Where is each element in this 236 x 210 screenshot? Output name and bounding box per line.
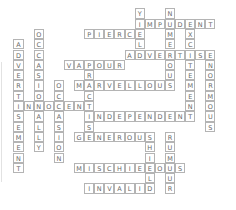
crossword-cell[interactable]: D [135,50,145,60]
crossword-cell[interactable]: E· [185,19,195,29]
crossword-cell[interactable]: U [165,19,175,29]
crossword-cell[interactable]: E [104,132,114,142]
crossword-cell[interactable]: O [165,60,175,70]
crossword-cell[interactable]: D [104,111,114,121]
crossword-cell[interactable]: C [104,163,114,173]
crossword-cell[interactable]: U [205,111,215,121]
crossword-cell[interactable]: V [13,60,23,70]
crossword-cell[interactable]: E [135,29,145,39]
crossword-cell[interactable]: M [165,153,175,163]
crossword-cell[interactable]: S [205,122,215,132]
crossword-cell[interactable]: V [104,80,114,90]
crossword-cell[interactable]: H [145,142,155,152]
crossword-cell[interactable]: T [13,163,23,173]
crossword-cell[interactable]: L [34,132,44,142]
crossword-cell[interactable]: A [34,60,44,70]
crossword-cell[interactable]: I [84,163,94,173]
crossword-cell[interactable]: A [54,111,64,121]
crossword-cell[interactable]: E [145,163,155,173]
crossword-cell[interactable]: U [155,80,165,90]
crossword-cell[interactable]: P· [84,29,94,39]
crossword-cell[interactable]: U [165,142,175,152]
crossword-cell[interactable]: C [34,39,44,49]
crossword-cell[interactable]: L [125,183,135,193]
crossword-cell[interactable]: O [155,163,165,173]
crossword-cell[interactable]: O· [34,29,44,39]
crossword-cell[interactable]: C [34,50,44,60]
crossword-cell[interactable]: D [155,111,165,121]
crossword-cell[interactable]: E [114,80,124,90]
crossword-cell[interactable]: O [54,142,64,152]
crossword-cell[interactable]: E [13,142,23,152]
crossword-cell[interactable]: S [13,111,23,121]
crossword-cell[interactable]: Y [34,142,44,152]
crossword-cell[interactable]: L [145,173,155,183]
crossword-cell[interactable]: R [94,80,104,90]
crossword-cell[interactable]: I [54,132,64,142]
crossword-cell[interactable]: V [104,183,114,193]
crossword-cell[interactable]: R [114,60,124,70]
crossword-cell[interactable]: N [34,101,44,111]
crossword-cell[interactable]: L [34,122,44,132]
crossword-cell[interactable]: V [145,50,155,60]
crossword-cell[interactable]: O [44,101,54,111]
crossword-cell[interactable]: E [84,132,94,142]
crossword-cell[interactable]: L [135,80,145,90]
crossword-cell[interactable]: E· [205,50,215,60]
crossword-cell[interactable]: V· [64,60,74,70]
crossword-cell[interactable]: S [94,163,104,173]
crossword-cell[interactable]: I· [84,111,94,121]
crossword-cell[interactable]: N [195,19,205,29]
crossword-cell[interactable]: N· [165,8,175,18]
crossword-cell[interactable]: E [185,70,195,80]
crossword-cell[interactable]: R· [165,132,175,142]
crossword-cell[interactable]: I· [135,19,145,29]
crossword-cell[interactable]: O [34,91,44,101]
crossword-cell[interactable]: T [205,19,215,29]
crossword-cell[interactable]: S [165,80,175,90]
crossword-cell[interactable]: E [13,122,23,132]
crossword-cell[interactable]: E [135,111,145,121]
crossword-cell[interactable]: G· [74,132,84,142]
crossword-cell[interactable]: M [165,29,175,39]
crossword-cell[interactable]: M [185,80,195,90]
crossword-cell[interactable]: I [185,50,195,60]
crossword-cell[interactable]: I· [13,101,23,111]
crossword-cell[interactable]: M [145,19,155,29]
crossword-cell[interactable]: X [185,29,195,39]
crossword-cell[interactable]: R [114,29,124,39]
crossword-cell[interactable]: O [125,132,135,142]
crossword-cell[interactable]: L [135,39,145,49]
crossword-cell[interactable]: A· [13,39,23,49]
crossword-cell[interactable]: N [13,153,23,163]
crossword-cell[interactable]: S [175,163,185,173]
crossword-cell[interactable]: T [175,50,185,60]
crossword-cell[interactable]: C [54,101,64,111]
crossword-cell[interactable]: R [114,132,124,142]
crossword-cell[interactable]: I [34,80,44,90]
crossword-cell[interactable]: C [185,39,195,49]
crossword-cell[interactable]: U [165,163,175,173]
crossword-cell[interactable]: R [205,80,215,90]
crossword-cell[interactable]: A [84,80,94,90]
crossword-cell[interactable]: E [13,70,23,80]
crossword-cell[interactable]: S· [145,132,155,142]
crossword-cell[interactable]: O· [54,80,64,90]
crossword-cell[interactable]: M [205,91,215,101]
crossword-cell[interactable]: U [104,60,114,70]
crossword-cell[interactable]: E [185,91,195,101]
crossword-cell[interactable]: U [135,132,145,142]
crossword-cell[interactable]: S [84,122,94,132]
crossword-cell[interactable]: L [125,80,135,90]
crossword-cell[interactable]: C [84,91,94,101]
crossword-cell[interactable]: N [185,101,195,111]
crossword-cell[interactable]: A [74,60,84,70]
crossword-cell[interactable]: N [94,183,104,193]
crossword-cell[interactable]: C [125,29,135,39]
crossword-cell[interactable]: A [114,183,124,193]
crossword-cell[interactable]: N [24,101,34,111]
crossword-cell[interactable]: O [205,101,215,111]
crossword-cell[interactable]: E [165,39,175,49]
crossword-cell[interactable]: N [94,132,104,142]
crossword-cell[interactable]: U [165,70,175,80]
